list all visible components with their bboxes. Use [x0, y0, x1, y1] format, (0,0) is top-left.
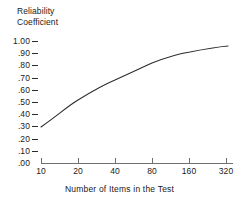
y-tick-dash [32, 65, 38, 66]
y-tick-label: .10 [4, 146, 30, 156]
x-tick-label: 40 [102, 166, 128, 176]
y-tick-dash [32, 53, 38, 54]
y-tick-label: .90 [4, 48, 30, 58]
x-tick-label: 160 [176, 166, 202, 176]
x-tick-label: 20 [65, 166, 91, 176]
x-tick-label: 320 [213, 166, 239, 176]
y-tick-label: .70 [4, 73, 30, 83]
y-tick-dash [32, 90, 38, 91]
y-tick-label: .00 [4, 158, 30, 168]
y-tick-dash [32, 139, 38, 140]
y-tick-dash [32, 102, 38, 103]
reliability-curve [41, 46, 228, 127]
y-tick-dash [32, 126, 38, 127]
y-tick-label: .80 [4, 60, 30, 70]
y-tick-dash [32, 78, 38, 79]
x-tick-label: 80 [139, 166, 165, 176]
y-tick-dash [32, 151, 38, 152]
x-axis-title: Number of Items in the Test [0, 184, 239, 194]
reliability-coefficient-chart: Reliability Coefficient 1.00 .90 .80 .70… [0, 0, 239, 206]
y-tick-label: .20 [4, 134, 30, 144]
y-tick-label: 1.00 [4, 36, 30, 46]
y-tick-dash [32, 41, 38, 42]
y-tick-label: .60 [4, 85, 30, 95]
plot-area: 1.00 .90 .80 .70 .60 .50 .40 .30 .20 .10… [0, 0, 239, 206]
x-tick-label: 10 [28, 166, 54, 176]
x-tick-marks [42, 158, 227, 163]
y-tick-dash [32, 114, 38, 115]
y-tick-label: .40 [4, 109, 30, 119]
y-tick-label: .50 [4, 97, 30, 107]
y-tick-label: .30 [4, 121, 30, 131]
